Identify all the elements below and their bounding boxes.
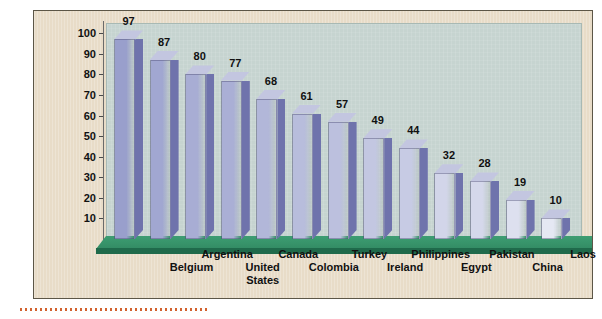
bar-top-face: [363, 129, 392, 138]
bar-top-face: [150, 51, 179, 60]
bar-value-label: 49: [372, 114, 384, 126]
bar-front-face: [292, 114, 313, 239]
x-label-philippines: Philippines: [411, 248, 470, 260]
x-label-ireland: Ireland: [387, 261, 423, 273]
x-axis-category-labels: BelgiumArgentinaUnitedStatesCanadaColomb…: [33, 247, 593, 293]
bar-front-face: [541, 218, 562, 239]
bar-side-face: [313, 114, 321, 239]
bar-laos: [506, 200, 527, 239]
bar-value-label: 44: [407, 124, 419, 136]
bar-belgium: [114, 39, 135, 239]
bar-philippines: [363, 138, 384, 239]
bar-side-face: [491, 181, 499, 239]
bar-side-face: [242, 81, 250, 239]
bar-top-face: [506, 191, 535, 200]
bar-value-label: 97: [122, 15, 134, 27]
bar-value-label: 61: [300, 90, 312, 102]
bar-front-face: [328, 122, 349, 239]
bar-front-face: [256, 99, 277, 239]
bar-value-label: 19: [514, 176, 526, 188]
bar-side-face: [171, 60, 179, 239]
bar-top-face: [470, 172, 499, 181]
bar-front-face: [434, 173, 455, 239]
bar-side-face: [135, 39, 143, 239]
bar-side-face: [455, 173, 463, 239]
x-label-egypt: Egypt: [461, 261, 492, 273]
bar-side-face: [349, 122, 357, 239]
bar-value-label: 80: [194, 50, 206, 62]
bar-turkey: [292, 114, 313, 239]
bar-top-face: [256, 90, 285, 99]
bar-top-face: [399, 139, 428, 148]
bar-front-face: [506, 200, 527, 239]
bar-side-face: [206, 74, 214, 239]
x-label-united-states: UnitedStates: [246, 261, 280, 287]
bar-top-face: [221, 72, 250, 81]
bar-front-face: [221, 81, 242, 239]
x-label-belgium: Belgium: [170, 261, 213, 273]
bar-colombia: [256, 99, 277, 239]
bar-united-states: [185, 74, 206, 239]
bar-value-label: 87: [158, 36, 170, 48]
bar-canada: [221, 81, 242, 239]
x-label-china: China: [532, 261, 563, 273]
bar-egypt: [399, 148, 420, 239]
bar-front-face: [185, 74, 206, 239]
bar-front-face: [150, 60, 171, 239]
bar-value-label: 32: [443, 149, 455, 161]
bar-nepal: [541, 218, 562, 239]
x-label-laos: Laos: [570, 248, 596, 260]
bar-side-face: [527, 200, 535, 239]
bar-side-face: [277, 99, 285, 239]
bar-pakistan: [434, 173, 455, 239]
x-label-turkey: Turkey: [352, 248, 387, 260]
bar-china: [470, 181, 491, 239]
bar-side-face: [420, 148, 428, 239]
bar-front-face: [114, 39, 135, 239]
bar-value-label: 57: [336, 98, 348, 110]
x-label-canada: Canada: [278, 248, 318, 260]
bar-ireland: [328, 122, 349, 239]
bar-top-face: [541, 209, 570, 218]
x-label-argentina: Argentina: [201, 248, 252, 260]
decorative-dotted-rule: [20, 308, 210, 311]
bar-value-label: 77: [229, 57, 241, 69]
bar-top-face: [292, 105, 321, 114]
bar-value-label: 68: [265, 75, 277, 87]
bar-side-face: [384, 138, 392, 239]
bar-top-face: [114, 30, 143, 39]
x-label-pakistan: Pakistan: [489, 248, 534, 260]
bar-front-face: [399, 148, 420, 239]
bar-top-face: [434, 164, 463, 173]
bar-top-face: [328, 113, 357, 122]
bar-value-label: 10: [550, 194, 562, 206]
bar-front-face: [363, 138, 384, 239]
chart-screenshot: Per Cent of Population Living in Urban A…: [0, 0, 602, 319]
bar-top-face: [185, 65, 214, 74]
bar-argentina: [150, 60, 171, 239]
bar-front-face: [470, 181, 491, 239]
x-label-colombia: Colombia: [309, 261, 359, 273]
bar-value-label: 28: [478, 157, 490, 169]
bar-side-face: [562, 218, 570, 239]
